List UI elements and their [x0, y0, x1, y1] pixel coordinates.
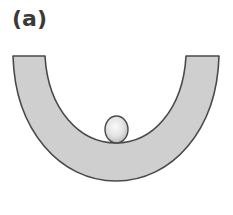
ball: [105, 116, 128, 143]
u-track-diagram: [0, 0, 233, 215]
